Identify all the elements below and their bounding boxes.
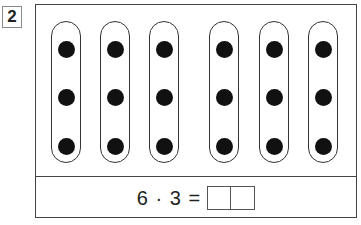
dot: [58, 138, 75, 155]
dot: [266, 89, 283, 106]
dot: [216, 89, 233, 106]
dot: [315, 89, 332, 106]
dot: [156, 41, 173, 58]
answer-box-tens[interactable]: [207, 186, 231, 210]
dot: [107, 89, 124, 106]
dot: [58, 41, 75, 58]
dot-group-oval: [259, 21, 289, 163]
equation-row: 6 · 3 =: [36, 177, 356, 219]
dot: [156, 89, 173, 106]
dot: [216, 138, 233, 155]
dot: [216, 41, 233, 58]
answer-box-ones[interactable]: [231, 186, 255, 210]
dot: [315, 41, 332, 58]
task-number-badge: 2: [2, 6, 22, 28]
dot: [156, 138, 173, 155]
dot-group-oval: [100, 21, 130, 163]
dot: [107, 41, 124, 58]
exercise-frame: 6 · 3 =: [35, 4, 357, 218]
dot: [107, 138, 124, 155]
dot: [58, 89, 75, 106]
equation-text: 6 · 3 =: [137, 187, 201, 210]
dot-group-oval: [209, 21, 239, 163]
dot: [266, 138, 283, 155]
dot-group-oval: [51, 21, 81, 163]
dot: [266, 41, 283, 58]
dot: [315, 138, 332, 155]
dot-group-oval: [308, 21, 338, 163]
dot-group-oval: [149, 21, 179, 163]
